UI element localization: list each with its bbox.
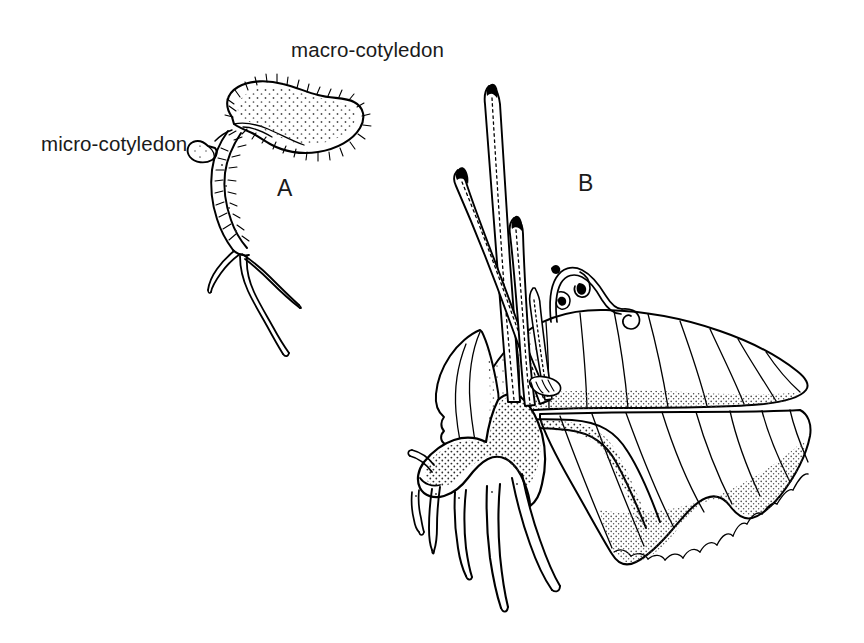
panel-a-seedling — [188, 74, 371, 356]
tendril-hook-fill — [577, 283, 587, 295]
root-b-5-tip — [419, 532, 424, 535]
tendril-small-coil-fill — [558, 297, 566, 306]
micro-cotyledon-organ — [188, 141, 217, 162]
root-system-a — [208, 250, 301, 356]
panel-letter-a: A — [277, 177, 292, 200]
label-micro-cotyledon: micro-cotyledon — [41, 134, 187, 155]
root-b-1-tip — [432, 550, 434, 554]
root-b-5-short-right — [419, 490, 424, 532]
tendril-base-bract — [551, 265, 560, 274]
macro-cotyledon-stipple — [238, 87, 356, 145]
illustration-svg — [0, 0, 864, 643]
root-b-lateral-tip — [408, 450, 412, 456]
root-b-3-tip — [501, 607, 508, 612]
root-long-right — [247, 257, 289, 353]
root-b-2-right — [465, 490, 473, 577]
hypocotyl-axis — [211, 130, 249, 250]
panel-letter-b: B — [578, 172, 593, 195]
root-b-4-tip — [552, 586, 560, 591]
label-macro-cotyledon: macro-cotyledon — [291, 40, 444, 61]
root-b-3-right — [499, 484, 509, 607]
root-collar — [233, 250, 249, 255]
root-left-upper — [208, 251, 234, 290]
panel-b-mature-plant — [408, 84, 810, 612]
root-b-1-left — [429, 489, 432, 550]
figure-canvas: macro-cotyledon micro-cotyledon A B — [0, 0, 864, 643]
macro-cotyledon-organ — [225, 74, 371, 161]
root-long-tip — [283, 353, 289, 356]
